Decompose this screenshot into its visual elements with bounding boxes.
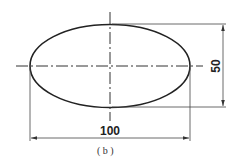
height-dimension-label: 50 [210, 59, 222, 72]
figure-caption: ( b ) [97, 146, 114, 156]
drawing-canvas [0, 0, 235, 168]
ellipse-drawing: 100 50 ( b ) [0, 0, 235, 168]
width-dimension-label: 100 [100, 125, 120, 137]
